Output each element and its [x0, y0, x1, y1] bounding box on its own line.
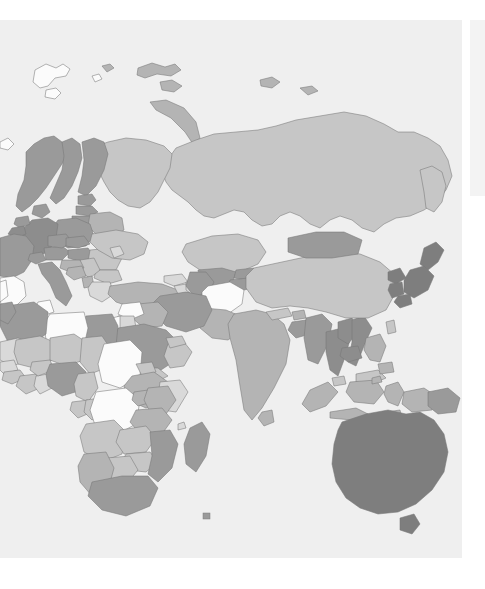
right-side-panel-body	[470, 20, 485, 196]
country-bhutan[interactable]	[292, 310, 306, 320]
map-screenshot-root	[0, 0, 485, 589]
country-philippines-south[interactable]	[378, 362, 394, 374]
world-map-svg[interactable]	[0, 20, 462, 558]
country-malaysia[interactable]	[332, 376, 346, 386]
world-map-canvas[interactable]	[0, 20, 462, 558]
island-marker-indian-ocean[interactable]	[203, 513, 210, 519]
right-side-panel[interactable]	[470, 20, 485, 196]
country-taiwan[interactable]	[386, 320, 396, 334]
country-mongolia[interactable]	[288, 232, 362, 258]
